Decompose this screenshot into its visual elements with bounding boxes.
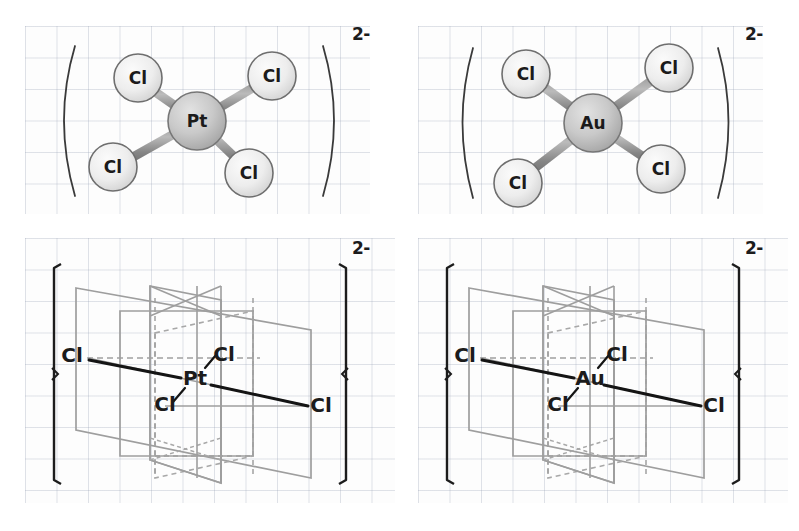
ligand-label-left: Cl xyxy=(454,343,476,367)
ligand-label-ll: Cl xyxy=(509,173,527,193)
center-atom-label: Pt xyxy=(187,111,208,131)
ligand-lower-left: Cl xyxy=(89,143,137,191)
ptcl4-planes-svg: Cl Cl Cl Cl Pt xyxy=(25,238,395,503)
ligand-label-lower-left: Cl xyxy=(154,392,176,416)
ligand-label-right: Cl xyxy=(703,393,725,417)
center-atom-label: Au xyxy=(580,113,605,133)
ligand-label-ll: Cl xyxy=(104,157,122,177)
right-parenthesis xyxy=(323,46,334,196)
ligand-label-ul: Cl xyxy=(129,68,147,88)
ligand-label-lower-left: Cl xyxy=(547,392,569,416)
charge-label-top-left: 2- xyxy=(352,24,370,44)
center-atom-label: Au xyxy=(575,366,605,390)
left-parenthesis xyxy=(463,48,474,198)
ligand-lower-right: Cl xyxy=(225,149,273,197)
ligand-lower-right: Cl xyxy=(637,145,685,193)
charge-label-top-right: 2- xyxy=(745,24,763,44)
ligand-label-ur: Cl xyxy=(660,58,678,78)
ligand-label-ul: Cl xyxy=(517,64,535,84)
ligand-label-ur: Cl xyxy=(263,66,281,86)
panel-ptcl4-symmetry-planes: Cl Cl Cl Cl Pt xyxy=(25,238,395,503)
bond-au-cl-right xyxy=(604,385,701,406)
ptcl4-ball-stick-svg: Cl Cl Cl Cl Pt xyxy=(25,26,370,214)
ligand-label-upper-right: Cl xyxy=(213,342,235,366)
ligand-lower-left: Cl xyxy=(494,159,542,207)
aucl4-planes-svg: Cl Cl Cl Cl Au xyxy=(418,238,788,503)
charge-label-bottom-left: 2- xyxy=(352,238,370,258)
left-parenthesis xyxy=(64,46,75,196)
panel-ptcl4-ball-stick: Cl Cl Cl Cl Pt xyxy=(25,26,370,214)
aucl4-ball-stick-svg: Cl Cl Cl Cl Au xyxy=(418,26,763,214)
center-atom-au: Au xyxy=(564,94,622,152)
ligand-upper-right: Cl xyxy=(248,52,296,100)
right-parenthesis xyxy=(718,48,729,198)
ligand-label-right: Cl xyxy=(310,393,332,417)
center-atom-label: Pt xyxy=(183,366,208,390)
center-atom-pt: Pt xyxy=(168,92,226,150)
bond-pt-cl-right xyxy=(211,385,308,406)
ligand-label-lr: Cl xyxy=(652,159,670,179)
ligand-upper-left: Cl xyxy=(114,54,162,102)
ligand-label-upper-right: Cl xyxy=(606,342,628,366)
panel-aucl4-ball-stick: Cl Cl Cl Cl Au xyxy=(418,26,763,214)
charge-label-bottom-right: 2- xyxy=(745,238,763,258)
ligand-label-lr: Cl xyxy=(240,163,258,183)
ligand-label-left: Cl xyxy=(61,343,83,367)
bond-au-cl-left xyxy=(482,360,574,378)
ligand-upper-left: Cl xyxy=(502,50,550,98)
bond-pt-cl-left xyxy=(89,360,181,378)
ligand-upper-right: Cl xyxy=(645,44,693,92)
panel-aucl4-symmetry-planes: Cl Cl Cl Cl Au xyxy=(418,238,788,503)
